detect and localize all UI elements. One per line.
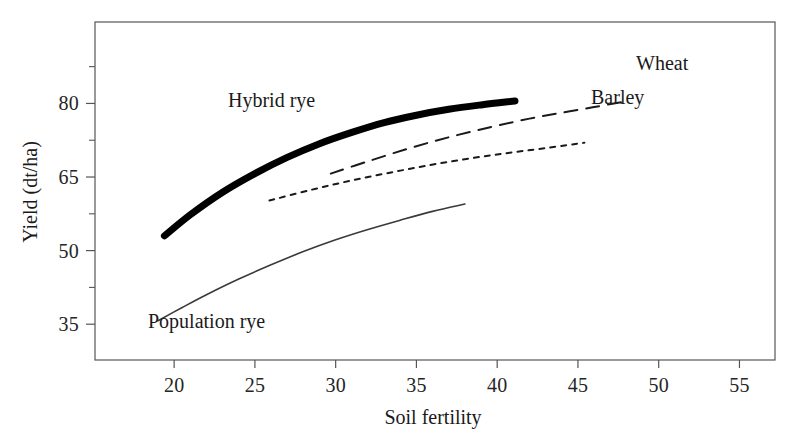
series-line-hybrid-rye [164,101,515,236]
y-tick-label: 35 [0,313,79,336]
x-tick-label: 30 [325,374,345,397]
x-tick-label: 55 [729,374,749,397]
x-axis-ticks [174,360,739,368]
x-tick-label: 45 [568,374,588,397]
x-tick-label: 25 [245,374,265,397]
y-axis-ticks [86,67,95,325]
series-label-barley: Barley [591,86,644,109]
y-tick-label: 80 [0,92,79,115]
series-line-barley [269,143,584,201]
chart-figure: Yield (dt/ha) Soil fertility Hybrid rye … [0,0,798,445]
x-tick-label: 40 [487,374,507,397]
y-axis-title: Yield (dt/ha) [19,141,42,243]
x-axis-title: Soil fertility [384,406,481,429]
series-label-wheat: Wheat [636,52,688,75]
series-line-wheat [331,102,623,174]
series-label-population-rye: Population rye [148,310,265,333]
series-layer [158,101,623,321]
x-tick-label: 35 [406,374,426,397]
series-label-hybrid-rye: Hybrid rye [228,89,315,112]
y-tick-label: 50 [0,239,79,262]
series-line-population-rye [158,204,465,321]
x-tick-label: 50 [649,374,669,397]
x-tick-label: 20 [164,374,184,397]
y-tick-label: 65 [0,166,79,189]
